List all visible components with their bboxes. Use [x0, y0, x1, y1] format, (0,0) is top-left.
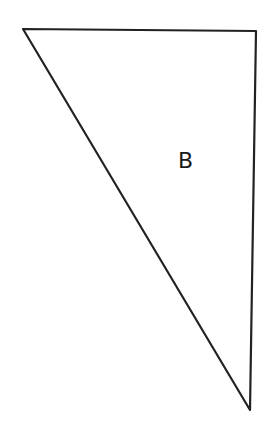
triangle-label: B [178, 148, 193, 173]
triangle-diagram [0, 0, 272, 436]
triangle-b [23, 29, 256, 410]
